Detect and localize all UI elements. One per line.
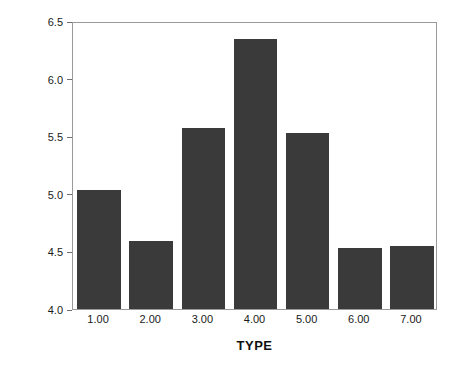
bar	[129, 241, 173, 309]
x-tick-label: 1.00	[87, 313, 108, 325]
y-tick-label: 5.0	[48, 187, 63, 203]
bar	[286, 133, 330, 309]
bars-layer	[73, 23, 436, 309]
x-axis-ticks: 1.002.003.004.005.006.007.00	[72, 313, 437, 333]
bar	[182, 128, 226, 309]
bar	[338, 248, 382, 309]
x-tick-label: 3.00	[192, 313, 213, 325]
bar	[234, 39, 278, 309]
x-tick-label: 6.00	[348, 313, 369, 325]
x-tick-label: 7.00	[400, 313, 421, 325]
plot-area	[72, 22, 437, 310]
y-tick-label: 4.5	[48, 244, 63, 260]
x-tick-label: 4.00	[244, 313, 265, 325]
bar	[77, 190, 121, 309]
x-tick-label: 2.00	[139, 313, 160, 325]
y-tick-label: 4.0	[48, 302, 63, 318]
y-tick-label: 6.5	[48, 14, 63, 30]
bar-chart-figure: DOCTOR9 Score 4.04.55.05.56.06.5 1.002.0…	[0, 0, 466, 369]
x-tick-label: 5.00	[296, 313, 317, 325]
x-axis-title: TYPE	[72, 338, 437, 353]
y-axis-ticks: 4.04.55.05.56.06.5	[0, 0, 72, 369]
y-tick-label: 6.0	[48, 72, 63, 88]
bar	[390, 246, 434, 309]
y-tick-label: 5.5	[48, 129, 63, 145]
